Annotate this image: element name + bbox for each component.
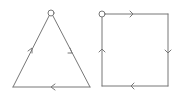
square-start-circle: [99, 11, 105, 17]
triangle-start-circle: [48, 10, 54, 16]
arrow-down-icon: [68, 48, 72, 53]
square-loop: [99, 11, 171, 89]
loops-diagram: [0, 0, 181, 99]
triangle-loop: [13, 10, 90, 90]
triangle-left-edge: [13, 16, 49, 87]
